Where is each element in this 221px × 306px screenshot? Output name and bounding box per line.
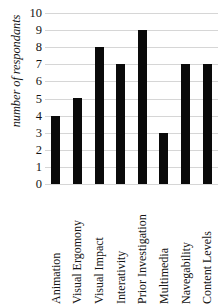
y-axis-tick-label: 4	[18, 109, 42, 122]
x-axis-label-slot: Multimedia	[156, 186, 172, 304]
gridline	[45, 184, 218, 185]
x-axis-label-slot: Interativity	[113, 186, 129, 304]
bar	[116, 64, 125, 184]
x-axis-label-slot: Visual Ergomony	[69, 186, 85, 304]
x-axis-category-labels: AnimationVisual ErgomonyVisual ImpactInt…	[45, 186, 218, 306]
plot-area	[45, 13, 218, 184]
bars-group	[45, 13, 218, 184]
bar	[203, 64, 212, 184]
y-axis-tick-label: 8	[18, 41, 42, 54]
y-axis-tick-label: 9	[18, 24, 42, 37]
x-axis-label: Interativity	[115, 251, 127, 304]
bar	[73, 98, 82, 184]
bar	[51, 116, 60, 184]
bar	[159, 133, 168, 184]
y-axis-tick-labels: 109876543210	[18, 8, 42, 184]
x-axis-label: Multimedia	[158, 248, 170, 304]
y-axis-tick-label: 1	[18, 161, 42, 174]
x-axis-label-slot: Animation	[48, 186, 64, 304]
x-axis-label: Content Levels	[201, 231, 213, 304]
y-axis-tick-label: 2	[18, 144, 42, 157]
x-axis-label: Visual Ergomony	[71, 220, 83, 304]
x-axis-label: Navegability	[180, 242, 192, 304]
y-axis-tick-label: 0	[18, 178, 42, 191]
bar	[95, 47, 104, 184]
x-axis-label: Prior Investigation	[136, 214, 148, 304]
y-axis-tick-label: 5	[18, 92, 42, 105]
x-axis-label: Visual Impact	[93, 237, 105, 304]
bar	[181, 64, 190, 184]
y-axis-tick-label: 7	[18, 58, 42, 71]
x-axis-label-slot: Navegability	[178, 186, 194, 304]
y-axis-tick-label: 10	[18, 7, 42, 20]
y-axis-tick-label: 6	[18, 75, 42, 88]
x-axis-label-slot: Visual Impact	[91, 186, 107, 304]
y-axis-tick-label: 3	[18, 126, 42, 139]
bar	[138, 30, 147, 184]
x-axis-label-slot: Prior Investigation	[134, 186, 150, 304]
x-axis-label-slot: Content Levels	[199, 186, 215, 304]
bar-chart: number of respondants 109876543210 Anima…	[0, 0, 221, 306]
x-axis-label: Animation	[50, 253, 62, 304]
